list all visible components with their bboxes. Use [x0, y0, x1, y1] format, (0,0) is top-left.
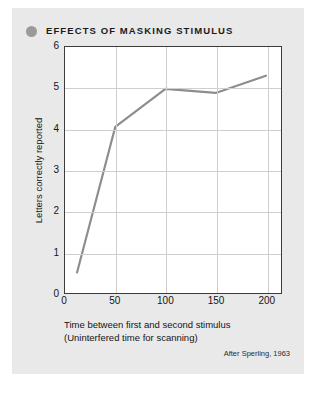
gridline-horizontal — [65, 88, 281, 89]
plot-area — [64, 46, 282, 294]
filled-circle-icon — [26, 26, 37, 37]
attribution-text: After Sperling, 1963 — [224, 349, 290, 358]
x-axis-label: Time between first and second stimulus (… — [64, 318, 294, 344]
y-axis-label-text: Letters correctly reported — [34, 117, 45, 223]
y-axis-tick: 2 — [53, 206, 59, 216]
figure-card: EFFECTS OF MASKING STIMULUS Letters corr… — [12, 8, 304, 374]
y-axis-tick: 6 — [53, 41, 59, 51]
y-axis-label: Letters correctly reported — [32, 46, 46, 294]
x-axis-tick: 150 — [208, 296, 225, 306]
page-title: EFFECTS OF MASKING STIMULUS — [46, 26, 234, 36]
y-axis-tick: 0 — [53, 289, 59, 299]
y-axis-tick-labels: 0123456 — [46, 46, 62, 294]
x-axis-tick: 50 — [109, 296, 120, 306]
gridline-horizontal — [65, 212, 281, 213]
x-axis-tick-labels: 050100150200 — [64, 296, 282, 310]
y-axis-tick: 4 — [53, 124, 59, 134]
x-axis-label-line-2: (Uninterfered time for scanning) — [64, 331, 294, 344]
x-axis-tick: 100 — [157, 296, 174, 306]
gridline-horizontal — [65, 254, 281, 255]
gridline-horizontal — [65, 171, 281, 172]
x-axis-tick: 200 — [258, 296, 275, 306]
x-axis-tick: 0 — [61, 296, 67, 306]
gridline-vertical — [217, 47, 218, 293]
gridline-vertical — [116, 47, 117, 293]
figure-header: EFFECTS OF MASKING STIMULUS — [26, 21, 294, 41]
gridline-horizontal — [65, 130, 281, 131]
gridline-vertical — [166, 47, 167, 293]
y-axis-tick: 5 — [53, 82, 59, 92]
y-axis-tick: 1 — [53, 248, 59, 258]
gridline-vertical — [268, 47, 269, 293]
data-series-line — [65, 47, 281, 293]
chart-plot-block: Letters correctly reported 0123456 05010… — [32, 46, 288, 304]
x-axis-label-line-1: Time between first and second stimulus — [64, 318, 294, 331]
y-axis-tick: 3 — [53, 165, 59, 175]
